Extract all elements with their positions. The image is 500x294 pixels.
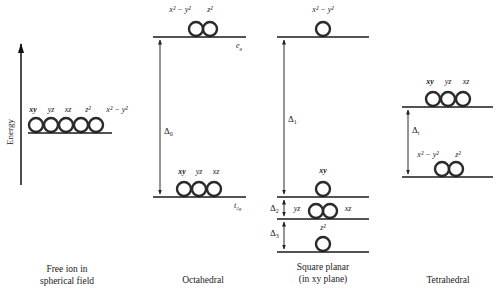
orbital-label-xz: xz: [212, 167, 221, 176]
square-planar-group: x² − y² Δ1 xy Δ2 yz xz Δ3 z² Square plan…: [270, 5, 369, 285]
orbital-label-z2: z²: [206, 5, 213, 14]
orbital-label-xy: xy: [28, 105, 37, 114]
orbital-circle-icon: [435, 162, 449, 176]
orbital-label-xz: xz: [462, 77, 471, 86]
orbital-circle-icon: [59, 118, 73, 132]
orbital-circle-icon: [89, 118, 103, 132]
square-planar-caption-line2: (in xy plane): [299, 274, 348, 285]
orbital-circle-icon: [449, 162, 463, 176]
delta-1-label: Δ1: [288, 114, 297, 125]
orbital-label-xy: xy: [318, 166, 327, 175]
t2g-symbol: t2g: [234, 201, 242, 211]
orbital-label-z2: z²: [319, 223, 326, 232]
orbital-circle-icon: [207, 182, 221, 196]
orbital-label-x2-y2: x² − y²: [168, 5, 191, 14]
orbital-label-z2: z²: [84, 105, 91, 114]
octahedral-caption: Octahedral: [182, 275, 224, 285]
orbital-label-yz: yz: [444, 77, 453, 86]
delta-o-label: Δ0: [164, 126, 173, 137]
orbital-circle-icon: [29, 118, 43, 132]
orbital-circle-icon: [177, 182, 191, 196]
orbital-label-xz: xz: [344, 204, 353, 213]
square-planar-caption-line1: Square planar: [297, 262, 350, 272]
tetrahedral-caption: Tetrahedral: [426, 275, 469, 285]
orbital-label-xy: xy: [425, 77, 434, 86]
delta-3-label: Δ3: [270, 228, 279, 239]
orbital-circle-icon: [441, 92, 455, 106]
orbital-circle-icon: [316, 237, 330, 251]
orbital-circle-icon: [189, 22, 203, 36]
orbital-circle-icon: [74, 118, 88, 132]
delta-2-label: Δ2: [270, 203, 279, 214]
orbital-label-yz: yz: [195, 167, 204, 176]
orbital-circle-icon: [203, 22, 217, 36]
orbital-circle-icon: [456, 92, 470, 106]
orbital-label-z2: z²: [454, 150, 461, 159]
orbital-label-xz: xz: [64, 105, 73, 114]
delta-t-label: Δt: [412, 125, 420, 136]
octahedral-group: x² − y² z² eg Δ0 xy yz xz t2g Octahedral: [153, 5, 246, 285]
orbital-circle-icon: [316, 182, 330, 196]
orbital-circle-icon: [44, 118, 58, 132]
tetrahedral-group: xy yz xz Δt x² − y² z² Tetrahedral: [402, 77, 493, 285]
orbital-label-x2-y2: x² − y²: [105, 105, 128, 114]
orbital-circle-icon: [192, 182, 206, 196]
crystal-field-splitting-diagram: Energy xy yz xz z² x² − y² Free ion in s…: [0, 0, 500, 294]
orbital-label-x2-y2: x² − y²: [311, 5, 334, 14]
orbital-circle-icon: [316, 22, 330, 36]
orbital-label-x2-y2: x² − y²: [416, 150, 439, 159]
orbital-circle-icon: [323, 204, 337, 218]
energy-axis-label: Energy: [5, 119, 15, 145]
orbital-label-yz: yz: [47, 105, 56, 114]
free-ion-caption-line1: Free ion in: [46, 264, 87, 274]
orbital-label-yz: yz: [293, 204, 302, 213]
orbital-circle-icon: [426, 92, 440, 106]
free-ion-group: xy yz xz z² x² − y² Free ion in spherica…: [28, 105, 128, 286]
eg-symbol: eg: [236, 41, 243, 51]
orbital-circle-icon: [309, 204, 323, 218]
orbital-label-xy: xy: [177, 167, 186, 176]
energy-axis: Energy: [5, 44, 21, 185]
free-ion-caption-line2: spherical field: [40, 276, 94, 286]
